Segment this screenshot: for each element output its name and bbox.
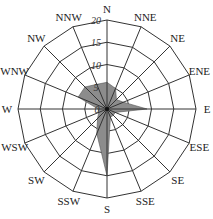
direction-label: S xyxy=(104,203,110,215)
direction-label: SSW xyxy=(57,195,80,207)
direction-label: N xyxy=(103,3,111,15)
direction-label: NE xyxy=(170,32,185,44)
tick-label: 5 xyxy=(94,82,99,93)
spoke xyxy=(107,109,170,172)
direction-label: NW xyxy=(27,32,46,44)
center-dot xyxy=(105,107,109,111)
tick-label: 0 xyxy=(95,104,100,115)
spoke xyxy=(44,109,107,172)
direction-label: W xyxy=(2,103,13,115)
tick-label: 15 xyxy=(91,37,101,48)
direction-label: SSE xyxy=(136,195,155,207)
direction-label: E xyxy=(204,103,211,115)
direction-label: NNW xyxy=(56,11,83,23)
spoke xyxy=(107,46,170,109)
direction-label: WSW xyxy=(1,141,29,153)
tick-label: 10 xyxy=(91,60,101,71)
wind-rose-chart: NNNENEENEEESESESSESSSWSWWSWWWNWNWNNW 051… xyxy=(0,0,213,219)
spoke xyxy=(44,46,107,109)
direction-label: SW xyxy=(28,174,45,186)
tick-label: 20 xyxy=(91,15,101,26)
direction-label: WNW xyxy=(0,65,29,77)
direction-label: SE xyxy=(171,174,184,186)
direction-label: ESE xyxy=(190,141,210,153)
direction-label: NNE xyxy=(134,11,157,23)
direction-label: ENE xyxy=(189,65,211,77)
